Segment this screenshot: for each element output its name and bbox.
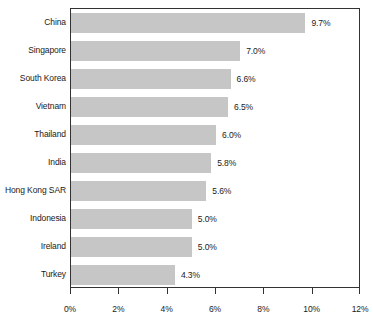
bar-value-label: 5.8% — [217, 158, 236, 168]
x-axis-tick-label: 10% — [303, 304, 320, 314]
x-axis-tick — [312, 288, 313, 294]
bar-value-label: 5.0% — [198, 242, 217, 252]
category-label-south-korea: South Korea — [0, 73, 66, 83]
bar-south-korea[interactable] — [71, 69, 231, 89]
bar-value-label: 6.5% — [234, 102, 253, 112]
x-axis: 0%2%4%6%8%10%12% — [70, 288, 360, 326]
category-label-singapore: Singapore — [0, 45, 66, 55]
category-label-ireland: Ireland — [0, 241, 66, 251]
x-axis-tick-label: 2% — [112, 304, 124, 314]
bar-india[interactable] — [71, 153, 211, 173]
bar-row: 9.7% — [71, 13, 359, 33]
category-label-turkey: Turkey — [0, 269, 66, 279]
plot-area: 9.7%7.0%6.6%6.5%6.0%5.8%5.6%5.0%5.0%4.3% — [70, 8, 360, 288]
bar-value-label: 6.0% — [222, 130, 241, 140]
category-label-thailand: Thailand — [0, 129, 66, 139]
x-axis-tick — [215, 288, 216, 294]
bar-value-label: 5.6% — [212, 186, 231, 196]
category-label-vietnam: Vietnam — [0, 101, 66, 111]
category-label-hong-kong-sar: Hong Kong SAR — [0, 185, 66, 195]
x-axis-tick-label: 6% — [209, 304, 221, 314]
x-axis-tick-label: 0% — [64, 304, 76, 314]
bar-value-label: 6.6% — [237, 74, 256, 84]
bar-row: 5.0% — [71, 237, 359, 257]
bar-hong-kong-sar[interactable] — [71, 181, 206, 201]
bar-china[interactable] — [71, 13, 305, 33]
bar-turkey[interactable] — [71, 265, 175, 285]
bar-row: 6.0% — [71, 125, 359, 145]
bar-value-label: 4.3% — [181, 270, 200, 280]
bar-row: 5.6% — [71, 181, 359, 201]
x-axis-tick-label: 4% — [161, 304, 173, 314]
category-axis: ChinaSingaporeSouth KoreaVietnamThailand… — [0, 8, 66, 288]
category-label-china: China — [0, 17, 66, 27]
bar-thailand[interactable] — [71, 125, 216, 145]
bar-singapore[interactable] — [71, 41, 240, 61]
bar-value-label: 9.7% — [311, 18, 330, 28]
x-axis-tick-label: 8% — [257, 304, 269, 314]
x-axis-tick-label: 12% — [352, 304, 369, 314]
bar-row: 6.6% — [71, 69, 359, 89]
category-label-indonesia: Indonesia — [0, 213, 66, 223]
bar-indonesia[interactable] — [71, 209, 192, 229]
category-label-india: India — [0, 157, 66, 167]
bar-ireland[interactable] — [71, 237, 192, 257]
x-axis-tick — [359, 288, 360, 294]
bar-row: 5.8% — [71, 153, 359, 173]
bar-row: 5.0% — [71, 209, 359, 229]
bar-value-label: 7.0% — [246, 46, 265, 56]
bar-row: 7.0% — [71, 41, 359, 61]
x-axis-tick — [70, 288, 71, 294]
bars-layer: 9.7%7.0%6.6%6.5%6.0%5.8%5.6%5.0%5.0%4.3% — [71, 9, 359, 287]
bar-row: 4.3% — [71, 265, 359, 285]
bar-chart: ChinaSingaporeSouth KoreaVietnamThailand… — [0, 0, 373, 327]
x-axis-tick — [118, 288, 119, 294]
bar-vietnam[interactable] — [71, 97, 228, 117]
x-axis-tick — [167, 288, 168, 294]
bar-row: 6.5% — [71, 97, 359, 117]
bar-value-label: 5.0% — [198, 214, 217, 224]
x-axis-tick — [263, 288, 264, 294]
